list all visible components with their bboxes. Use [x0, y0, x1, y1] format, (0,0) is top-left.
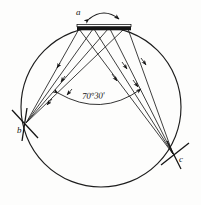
ray-arrowheads-c	[112, 58, 146, 87]
rotation-arrow-icon	[89, 13, 119, 19]
plate-a	[77, 25, 131, 31]
rays-to-b	[26, 29, 124, 123]
angle-label: 70°30'	[82, 91, 105, 101]
label-b: b	[17, 126, 22, 135]
label-a: a	[76, 8, 81, 17]
diagram-canvas	[0, 0, 201, 205]
cross-mark-b-icon	[12, 108, 38, 141]
label-c: c	[179, 155, 183, 164]
optical-ray-diagram: a b c 70°30'	[0, 0, 201, 205]
